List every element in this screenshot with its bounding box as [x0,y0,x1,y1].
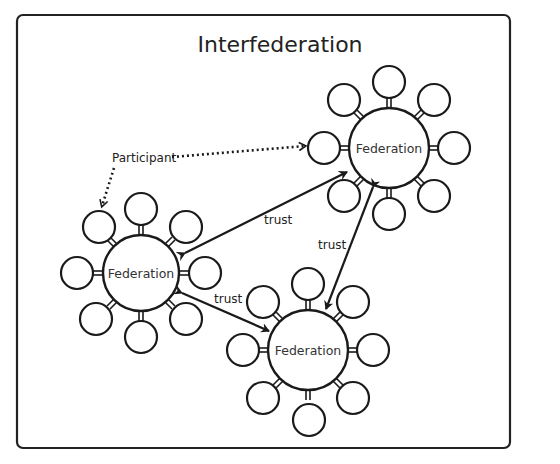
participant-node [308,132,340,164]
participant-node [337,382,369,414]
participant-node [170,211,202,243]
interfederation-diagram: Interfederation Federation [0,0,560,464]
participant-node [337,286,369,318]
participant-pointer-left [102,168,114,206]
participant-node [293,404,325,436]
participant-node [247,286,279,318]
federation-label: Federation [356,141,423,156]
trust-label: trust [318,238,346,252]
participant-node [328,84,360,116]
participant-node [357,334,389,366]
participant-node [418,84,450,116]
participant-node [292,268,324,300]
federation-label: Federation [108,266,175,281]
participant-node [83,211,115,243]
participant-node [373,198,405,230]
participant-pointer-right [172,146,305,157]
participant-node [189,257,221,289]
participant-node [80,303,112,335]
participant-node [170,303,202,335]
trust-label: trust [264,213,292,227]
participant-label: Participant [112,151,177,165]
participant-node [125,193,157,225]
participant-node [247,382,279,414]
participant-node [418,180,450,212]
participant-node [125,321,157,353]
participant-node [438,132,470,164]
participant-node [328,180,360,212]
federation-left: Federation [61,193,221,353]
diagram-title: Interfederation [197,32,362,57]
federation-top-right: Federation [308,66,470,230]
participant-node [61,257,93,289]
federation-label: Federation [275,343,342,358]
trust-label: trust [214,292,242,306]
participant-node [227,334,259,366]
participant-node [373,66,405,98]
federation-bottom: Federation [227,268,389,436]
